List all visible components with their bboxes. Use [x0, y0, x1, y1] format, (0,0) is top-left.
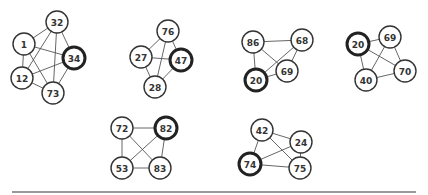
node-69: 69	[276, 60, 298, 82]
graph-4: 20694070	[347, 26, 416, 91]
node-82: 82	[155, 117, 177, 139]
node-label: 20	[352, 40, 365, 50]
graph-1: 321341273	[11, 11, 85, 104]
node-47: 47	[170, 49, 192, 71]
node-69: 69	[379, 26, 401, 48]
node-label: 69	[384, 33, 397, 43]
node-20: 20	[245, 69, 267, 91]
node-label: 70	[399, 67, 412, 77]
node-label: 86	[247, 38, 260, 48]
node-label: 73	[47, 89, 60, 99]
node-label: 76	[162, 27, 175, 37]
node-1: 1	[13, 33, 35, 55]
node-label: 1	[21, 40, 27, 50]
node-27: 27	[130, 46, 152, 68]
node-label: 75	[294, 164, 307, 174]
graph-3: 86686920	[242, 29, 313, 91]
node-label: 40	[360, 76, 373, 86]
node-label: 69	[281, 67, 294, 77]
node-76: 76	[157, 20, 179, 42]
node-label: 27	[135, 53, 148, 63]
graphs-layer: 3213412737627472886686920206940707282538…	[11, 11, 416, 179]
node-label: 68	[296, 36, 309, 46]
node-label: 42	[256, 126, 269, 136]
node-40: 40	[355, 69, 377, 91]
node-72: 72	[111, 117, 133, 139]
node-86: 86	[242, 31, 264, 53]
node-68: 68	[291, 29, 313, 51]
node-label: 24	[295, 138, 308, 148]
node-70: 70	[394, 60, 416, 82]
node-53: 53	[111, 157, 133, 179]
node-label: 47	[175, 56, 188, 66]
node-12: 12	[11, 67, 33, 89]
node-label: 34	[68, 54, 81, 64]
node-28: 28	[144, 76, 166, 98]
node-label: 32	[51, 18, 64, 28]
node-32: 32	[46, 11, 68, 33]
node-label: 74	[244, 160, 257, 170]
node-83: 83	[149, 157, 171, 179]
node-73: 73	[42, 82, 64, 104]
graph-6: 42247475	[239, 119, 312, 179]
node-34: 34	[63, 47, 85, 69]
node-24: 24	[290, 131, 312, 153]
node-label: 20	[250, 76, 263, 86]
node-label: 28	[149, 83, 162, 93]
node-label: 12	[16, 74, 29, 84]
graph-2: 76274728	[130, 20, 192, 98]
node-74: 74	[239, 153, 261, 175]
node-42: 42	[251, 119, 273, 141]
node-label: 82	[160, 124, 173, 134]
node-label: 53	[116, 164, 129, 174]
node-label: 83	[154, 164, 167, 174]
node-label: 72	[116, 124, 129, 134]
node-75: 75	[289, 157, 311, 179]
node-20: 20	[347, 33, 369, 55]
graph-diagram: 3213412737627472886686920206940707282538…	[0, 0, 428, 195]
graph-5: 72825383	[111, 117, 177, 179]
